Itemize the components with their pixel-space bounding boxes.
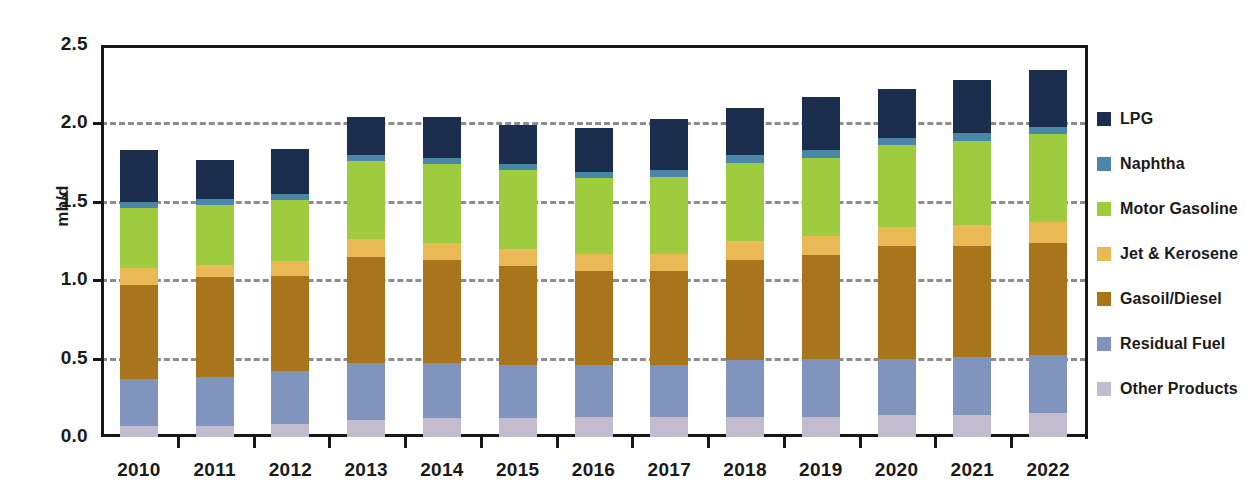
bar-segment[interactable]: [1029, 222, 1067, 242]
bar-segment[interactable]: [650, 365, 688, 417]
bar-segment[interactable]: [878, 227, 916, 246]
bar-segment[interactable]: [802, 150, 840, 158]
bar-group[interactable]: [802, 45, 840, 437]
bar-segment[interactable]: [347, 363, 385, 419]
bar-segment[interactable]: [878, 145, 916, 227]
bar-group[interactable]: [347, 45, 385, 437]
bar-segment[interactable]: [953, 415, 991, 437]
bar-segment[interactable]: [347, 161, 385, 239]
bar-segment[interactable]: [953, 225, 991, 245]
bar-segment[interactable]: [650, 271, 688, 365]
bar-segment[interactable]: [878, 89, 916, 138]
bar-segment[interactable]: [196, 277, 234, 377]
bar-segment[interactable]: [347, 117, 385, 155]
bar-segment[interactable]: [271, 371, 309, 424]
bar-segment[interactable]: [120, 379, 158, 426]
bar-segment[interactable]: [953, 357, 991, 415]
bar-segment[interactable]: [499, 418, 537, 437]
bar-segment[interactable]: [120, 268, 158, 285]
legend-item[interactable]: Residual Fuel: [1097, 321, 1247, 366]
bar-segment[interactable]: [802, 255, 840, 358]
bar-segment[interactable]: [1029, 70, 1067, 126]
bar-segment[interactable]: [271, 200, 309, 261]
bar-segment[interactable]: [650, 177, 688, 254]
bar-segment[interactable]: [802, 236, 840, 255]
bar-segment[interactable]: [878, 359, 916, 415]
legend-item[interactable]: Motor Gasoline: [1097, 186, 1247, 231]
bar-segment[interactable]: [802, 417, 840, 437]
bar-segment[interactable]: [196, 426, 234, 437]
bar-group[interactable]: [575, 45, 613, 437]
bar-segment[interactable]: [423, 418, 461, 437]
bar-segment[interactable]: [726, 417, 764, 437]
bar-segment[interactable]: [575, 128, 613, 172]
bar-segment[interactable]: [120, 208, 158, 268]
bar-group[interactable]: [878, 45, 916, 437]
bar-group[interactable]: [650, 45, 688, 437]
bar-segment[interactable]: [120, 150, 158, 202]
bar-segment[interactable]: [575, 417, 613, 437]
bar-segment[interactable]: [1029, 134, 1067, 222]
bar-segment[interactable]: [575, 178, 613, 253]
bar-segment[interactable]: [575, 254, 613, 271]
bar-group[interactable]: [271, 45, 309, 437]
bar-segment[interactable]: [575, 271, 613, 365]
bar-group[interactable]: [1029, 45, 1067, 437]
bar-segment[interactable]: [1029, 127, 1067, 135]
bar-segment[interactable]: [271, 149, 309, 194]
bar-segment[interactable]: [726, 155, 764, 163]
bar-segment[interactable]: [423, 117, 461, 158]
legend-item[interactable]: Naphtha: [1097, 141, 1247, 186]
bar-segment[interactable]: [423, 363, 461, 418]
bar-segment[interactable]: [347, 420, 385, 437]
bar-group[interactable]: [726, 45, 764, 437]
bar-segment[interactable]: [196, 160, 234, 199]
bar-segment[interactable]: [423, 164, 461, 242]
bar-segment[interactable]: [878, 415, 916, 437]
bar-segment[interactable]: [726, 241, 764, 260]
bar-group[interactable]: [499, 45, 537, 437]
bar-segment[interactable]: [1029, 355, 1067, 413]
bar-group[interactable]: [120, 45, 158, 437]
bar-segment[interactable]: [499, 125, 537, 164]
bar-segment[interactable]: [499, 170, 537, 248]
bar-segment[interactable]: [726, 360, 764, 416]
bar-segment[interactable]: [271, 424, 309, 437]
bar-segment[interactable]: [347, 239, 385, 256]
bar-segment[interactable]: [953, 133, 991, 141]
legend-item[interactable]: Gasoil/Diesel: [1097, 276, 1247, 321]
legend-item[interactable]: Other Products: [1097, 366, 1247, 411]
bar-segment[interactable]: [878, 246, 916, 359]
bar-segment[interactable]: [726, 260, 764, 360]
bar-segment[interactable]: [575, 365, 613, 417]
bar-segment[interactable]: [953, 80, 991, 133]
bar-segment[interactable]: [499, 266, 537, 365]
bar-segment[interactable]: [650, 254, 688, 271]
bar-segment[interactable]: [953, 246, 991, 357]
bar-group[interactable]: [196, 45, 234, 437]
bar-segment[interactable]: [120, 285, 158, 379]
legend-item[interactable]: LPG: [1097, 96, 1247, 141]
bar-segment[interactable]: [1029, 413, 1067, 437]
bar-segment[interactable]: [347, 257, 385, 364]
bar-segment[interactable]: [802, 359, 840, 417]
legend-item[interactable]: Jet & Kerosene: [1097, 231, 1247, 276]
bar-segment[interactable]: [196, 265, 234, 278]
bar-segment[interactable]: [196, 205, 234, 265]
bar-segment[interactable]: [650, 119, 688, 171]
bar-segment[interactable]: [650, 417, 688, 437]
bar-segment[interactable]: [271, 261, 309, 275]
bar-segment[interactable]: [499, 249, 537, 266]
bar-segment[interactable]: [1029, 243, 1067, 356]
bar-segment[interactable]: [726, 108, 764, 155]
bar-segment[interactable]: [499, 365, 537, 418]
bar-segment[interactable]: [953, 141, 991, 226]
bar-segment[interactable]: [878, 138, 916, 146]
bar-segment[interactable]: [271, 276, 309, 372]
bar-segment[interactable]: [802, 158, 840, 236]
bar-segment[interactable]: [423, 243, 461, 260]
bar-group[interactable]: [953, 45, 991, 437]
bar-segment[interactable]: [196, 377, 234, 426]
bar-segment[interactable]: [423, 260, 461, 363]
bar-segment[interactable]: [802, 97, 840, 150]
